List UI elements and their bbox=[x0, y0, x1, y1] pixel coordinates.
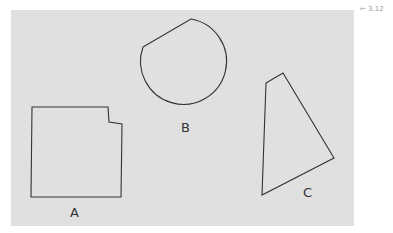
shape-c bbox=[262, 73, 334, 195]
label-b: B bbox=[181, 120, 190, 135]
shape-b bbox=[141, 19, 227, 104]
shapes-canvas bbox=[0, 0, 393, 233]
figure-annotation: ← 3.12 bbox=[360, 5, 384, 13]
label-a: A bbox=[70, 205, 79, 220]
annotation-text: 3.12 bbox=[368, 5, 384, 13]
label-c: C bbox=[303, 185, 312, 200]
arrow-left-icon: ← bbox=[360, 5, 366, 13]
shape-a bbox=[31, 107, 122, 197]
